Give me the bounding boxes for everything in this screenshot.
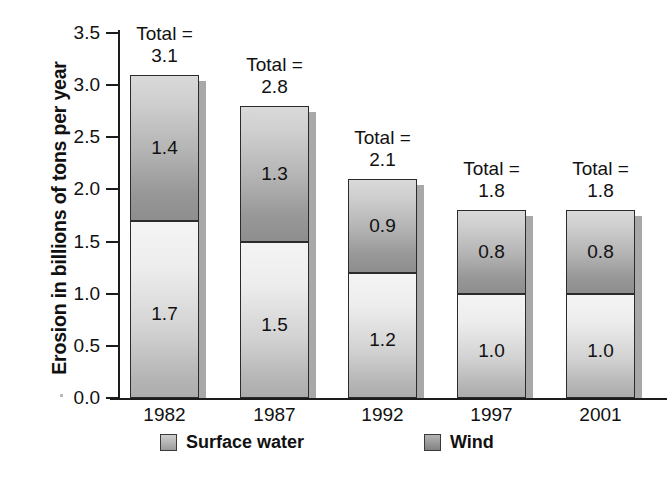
bar-total-value: 1.8 [439,180,544,202]
legend-item-wind[interactable]: Wind [424,430,494,454]
bar-segment-surface-water-value: 1.2 [349,330,416,349]
bar-segment-wind-value: 1.3 [241,164,308,183]
y-tick-label-text: 0.0 [44,388,100,407]
y-tick-mark [106,397,118,399]
y-tick-mark [106,188,118,190]
y-tick-label-text: 3.5 [44,23,100,42]
y-tick-label-text: 1.0 [44,284,100,303]
bar-total-annotation: Total =2.8 [222,54,327,98]
bar-shadow [309,112,316,398]
bar-segment-surface-water-value: 1.0 [567,341,634,360]
bar-total-prefix: Total = [548,158,653,180]
bar-total-annotation: Total =1.8 [439,158,544,202]
bar-segment-surface-water-value: 1.7 [131,304,198,323]
bar-segment-wind-value: 0.8 [567,242,634,261]
bar-total-value: 3.1 [112,45,217,67]
bar-segment-wind[interactable]: 1.4 [130,75,199,221]
x-axis-category-label: 1992 [332,404,433,426]
bar-total-value: 2.8 [222,76,327,98]
bar-segment-surface-water[interactable]: 1.0 [457,294,526,398]
legend-item-surface-water[interactable]: Surface water [160,430,304,454]
x-axis-category-label: 1982 [114,404,215,426]
bar-segment-surface-water[interactable]: 1.0 [566,294,635,398]
y-tick-label: 3.0 [38,75,100,94]
bar-total-annotation: Total =1.8 [548,158,653,202]
bar-segment-surface-water[interactable]: 1.2 [348,273,417,398]
y-tick-mark [106,293,118,295]
bar-total-prefix: Total = [439,158,544,180]
y-tick-label: 1.5 [38,232,100,251]
bar-segment-wind-value: 0.8 [458,242,525,261]
bar-segment-wind[interactable]: 0.8 [566,210,635,293]
bar-segment-wind[interactable]: 0.9 [348,179,417,273]
x-axis-category-label: 1987 [224,404,325,426]
y-tick-label: 3.5 [38,23,100,42]
bar-segment-wind-value: 0.9 [349,216,416,235]
scan-artifact-dot [60,394,63,397]
y-tick-mark [106,84,118,86]
bar-total-value: 2.1 [330,149,435,171]
bar-segment-wind[interactable]: 0.8 [457,210,526,293]
y-tick-label: 0.5 [38,336,100,355]
x-axis-category-label: 1997 [441,404,542,426]
y-tick-label-text: 2.0 [44,179,100,198]
bar-shadow [526,216,533,398]
chart-legend: Surface water Wind [0,430,671,460]
bar-total-prefix: Total = [222,54,327,76]
bar-total-annotation: Total =3.1 [112,23,217,67]
bar-segment-wind-value: 1.4 [131,138,198,157]
y-tick-label-text: 3.0 [44,75,100,94]
x-axis-line [110,398,667,400]
bar-segment-surface-water-value: 1.0 [458,341,525,360]
legend-label-surface-water: Surface water [186,432,304,452]
y-tick-label-text: 2.5 [44,127,100,146]
y-tick-label: 2.5 [38,127,100,146]
surface-water-swatch-icon [160,434,177,451]
stacked-bar-chart: Erosion in billions of tons per year 3.5… [0,0,671,480]
y-tick-mark [106,241,118,243]
bar-total-value: 1.8 [548,180,653,202]
bar-total-prefix: Total = [330,127,435,149]
y-tick-label: 2.0 [38,179,100,198]
bar-segment-surface-water[interactable]: 1.7 [130,221,199,398]
bar-total-prefix: Total = [112,23,217,45]
bar-shadow [417,185,424,398]
y-tick-mark [106,136,118,138]
bar-segment-surface-water-value: 1.5 [241,315,308,334]
y-tick-mark [106,345,118,347]
wind-swatch-icon [424,434,441,451]
y-tick-label-text: 1.5 [44,232,100,251]
bar-segment-wind[interactable]: 1.3 [240,106,309,242]
bar-shadow [199,81,206,398]
y-tick-label-text: 0.5 [44,336,100,355]
bar-shadow [635,216,642,398]
y-tick-label: 1.0 [38,284,100,303]
bar-segment-surface-water[interactable]: 1.5 [240,242,309,398]
legend-label-wind: Wind [450,432,494,452]
y-axis-line [118,30,120,399]
bar-total-annotation: Total =2.1 [330,127,435,171]
x-axis-category-label: 2001 [550,404,651,426]
y-tick-label: 0.0 [38,388,100,407]
